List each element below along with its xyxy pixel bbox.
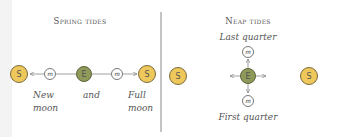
spring-earth: E: [77, 67, 92, 82]
spring-sun-right: S: [139, 66, 156, 83]
svg-text:E: E: [81, 70, 86, 79]
neap-earth: E: [241, 69, 256, 84]
svg-text:m: m: [245, 97, 251, 104]
tides-diagram: Spring tides S m E m S New moon and Full…: [0, 0, 337, 137]
svg-text:m: m: [245, 48, 251, 55]
svg-text:S: S: [175, 72, 180, 81]
neap-sun-right: S: [301, 68, 318, 85]
caption-new-moon: moon: [33, 103, 58, 113]
neap-moon-first-quarter: m: [243, 96, 254, 107]
svg-text:m: m: [114, 70, 120, 77]
svg-text:S: S: [16, 70, 21, 79]
spring-moon-new: m: [45, 69, 56, 80]
last-quarter-label: Last quarter: [219, 32, 278, 42]
svg-text:E: E: [245, 72, 250, 81]
spring-tides-title: Spring tides: [54, 16, 107, 26]
caption-and: and: [83, 90, 100, 100]
neap-moon-last-quarter: m: [243, 47, 254, 58]
svg-text:S: S: [144, 70, 149, 79]
caption-full: Full: [127, 90, 146, 100]
svg-text:m: m: [47, 70, 53, 77]
svg-text:S: S: [306, 72, 311, 81]
spring-sun-left: S: [11, 66, 28, 83]
first-quarter-label: First quarter: [218, 112, 279, 122]
neap-sun-left: S: [170, 68, 187, 85]
caption-new: New: [32, 90, 54, 100]
spring-moon-full: m: [112, 69, 123, 80]
neap-tides-title: Neap tides: [225, 16, 271, 26]
caption-full-moon: moon: [128, 103, 153, 113]
